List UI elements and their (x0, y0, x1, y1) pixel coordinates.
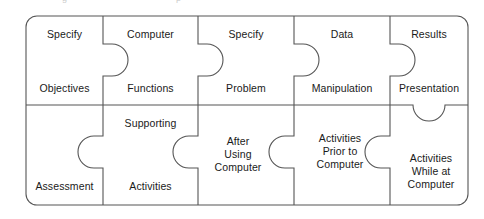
puzzle-outline-svg (0, 0, 484, 219)
jigsaw-puzzle-diagram: gp Specify Objectives Computer Functions… (0, 0, 484, 219)
